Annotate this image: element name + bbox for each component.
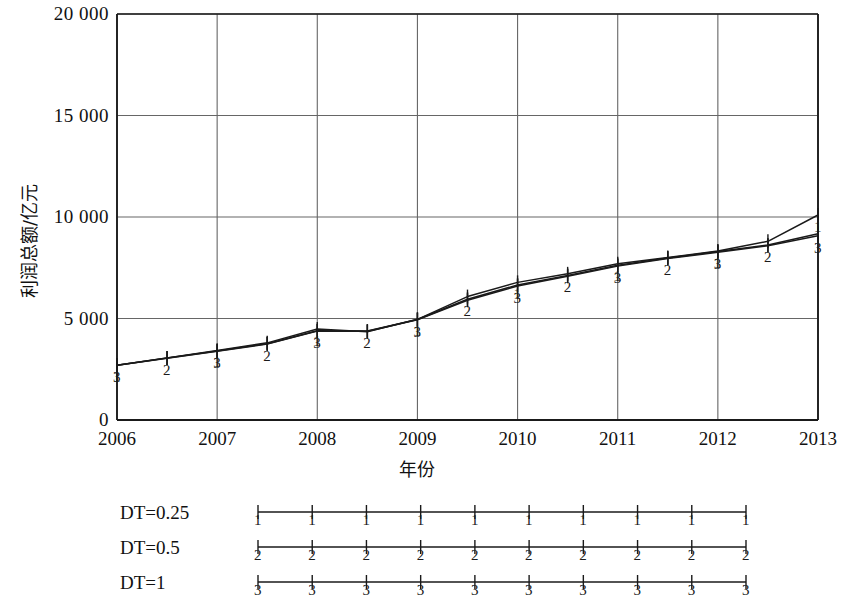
- x-axis-tick-label: 2013: [773, 429, 841, 448]
- svg-text:3: 3: [113, 369, 121, 385]
- svg-text:1: 1: [362, 512, 370, 528]
- svg-text:2: 2: [254, 547, 262, 563]
- legend-sample-line: 1111111111: [252, 498, 752, 528]
- svg-text:3: 3: [525, 582, 533, 597]
- svg-text:3: 3: [742, 582, 750, 597]
- svg-text:3: 3: [634, 582, 642, 597]
- svg-text:1: 1: [742, 512, 750, 528]
- legend-sample-line: 2222222222: [252, 533, 752, 563]
- svg-text:3: 3: [688, 582, 696, 597]
- svg-text:3: 3: [714, 256, 722, 272]
- svg-text:2: 2: [742, 547, 750, 563]
- svg-text:2: 2: [688, 547, 696, 563]
- svg-text:3: 3: [417, 582, 425, 597]
- svg-text:3: 3: [362, 582, 370, 597]
- x-axis-tick-label: 2009: [372, 429, 462, 448]
- legend-entry-dt-1: DT=1 3333333333: [0, 568, 833, 597]
- svg-text:2: 2: [362, 547, 370, 563]
- y-axis-title: 利润总额/亿元: [15, 161, 41, 321]
- svg-text:1: 1: [634, 512, 642, 528]
- y-axis-tick-label: 20 000: [9, 4, 109, 23]
- x-axis-tick-label: 2007: [172, 429, 262, 448]
- svg-text:1: 1: [579, 512, 587, 528]
- svg-text:1: 1: [417, 512, 425, 528]
- svg-text:3: 3: [471, 582, 479, 597]
- svg-text:3: 3: [814, 240, 822, 256]
- svg-text:2: 2: [308, 547, 316, 563]
- svg-text:2: 2: [634, 547, 642, 563]
- svg-text:3: 3: [254, 582, 262, 597]
- svg-text:1: 1: [688, 512, 696, 528]
- y-axis-tick-label: 15 000: [9, 106, 109, 125]
- legend-label: DT=0.25: [120, 498, 250, 528]
- x-axis-tick-label: 2008: [272, 429, 362, 448]
- svg-text:3: 3: [614, 270, 622, 286]
- svg-text:2: 2: [579, 547, 587, 563]
- y-axis-tick-label: 0: [9, 410, 109, 429]
- svg-text:3: 3: [413, 324, 421, 340]
- x-axis-title: 年份: [0, 455, 833, 481]
- x-axis-tick-label: 2012: [673, 429, 763, 448]
- svg-text:1: 1: [471, 512, 479, 528]
- svg-text:2: 2: [471, 547, 479, 563]
- legend-sample-line: 3333333333: [252, 568, 752, 597]
- svg-text:1: 1: [254, 512, 262, 528]
- x-axis-tick-label: 2006: [72, 429, 162, 448]
- legend-label: DT=0.5: [120, 533, 250, 563]
- svg-text:3: 3: [514, 290, 522, 306]
- svg-text:3: 3: [308, 582, 316, 597]
- svg-text:2: 2: [417, 547, 425, 563]
- svg-text:1: 1: [525, 512, 533, 528]
- svg-text:3: 3: [213, 355, 221, 371]
- chart-canvas: 11111111222222233333333: [0, 0, 833, 500]
- legend-entry-dt-025: DT=0.25 1111111111: [0, 498, 833, 528]
- svg-text:2: 2: [525, 547, 533, 563]
- legend-entry-dt-05: DT=0.5 2222222222: [0, 533, 833, 563]
- svg-text:3: 3: [579, 582, 587, 597]
- x-axis-tick-label: 2010: [473, 429, 563, 448]
- legend-label: DT=1: [120, 568, 250, 597]
- svg-text:3: 3: [313, 335, 321, 351]
- legend: DT=0.25 1111111111 DT=0.5 2222222222 DT=…: [0, 498, 833, 597]
- x-axis-tick-label: 2011: [573, 429, 663, 448]
- svg-text:1: 1: [308, 512, 316, 528]
